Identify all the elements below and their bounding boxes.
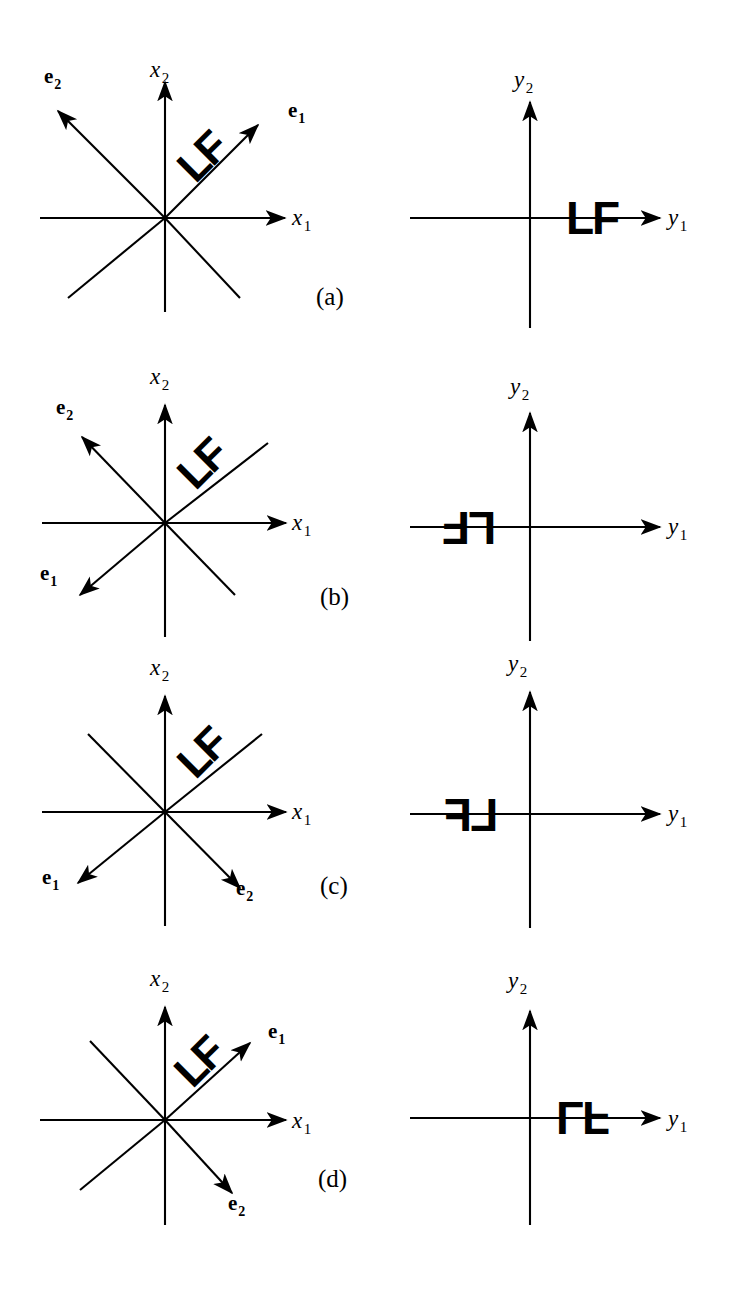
y1-axis-label: y1 xyxy=(668,206,687,234)
e2-ray xyxy=(165,812,240,888)
lf-motif-y: LF xyxy=(566,195,618,241)
panel-label-c: (c) xyxy=(320,872,348,900)
y-axes-svg xyxy=(370,355,729,645)
figure-root: x1 x2 e1 e2 LF y1 y2 LF (a) xyxy=(0,0,729,1291)
x1-axis-label: x1 xyxy=(292,206,311,234)
diag-up-left xyxy=(88,734,165,812)
e1-vector-label: e1 xyxy=(288,100,305,126)
diag-down-right xyxy=(165,218,240,298)
e2-ray xyxy=(82,437,165,523)
lf-motif-y: LF xyxy=(556,1095,608,1141)
y2-axis-label: y2 xyxy=(508,652,527,680)
panel-label-a: (a) xyxy=(316,283,344,311)
e2-vector-label: e2 xyxy=(44,66,61,92)
y2-axis-label: y2 xyxy=(510,375,529,403)
panel-a-y-diagram: y1 y2 LF xyxy=(370,40,729,340)
e1-vector-label: e1 xyxy=(42,867,59,893)
y1-axis-label: y1 xyxy=(668,802,687,830)
y1-axis-label: y1 xyxy=(668,515,687,543)
x2-axis-label: x2 xyxy=(150,656,169,684)
e2-vector-label: e2 xyxy=(236,878,253,904)
y-axes-svg xyxy=(370,40,729,340)
x1-axis-label: x1 xyxy=(292,511,311,539)
x2-axis-label: x2 xyxy=(150,365,169,393)
lf-motif-y: LF xyxy=(444,505,496,551)
x2-axis-label: x2 xyxy=(150,58,169,86)
panel-label-d: (d) xyxy=(318,1165,347,1193)
panel-b-x-diagram: x1 x2 e1 e2 LF xyxy=(0,355,370,645)
y2-axis-label: y2 xyxy=(514,68,533,96)
panel-b-y-diagram: y1 y2 LF xyxy=(370,355,729,645)
lf-motif-y: LF xyxy=(446,792,498,838)
panel-a-x-diagram: x1 x2 e1 e2 LF xyxy=(0,40,370,340)
y-axes-svg xyxy=(370,925,729,1225)
diag-down-right xyxy=(165,523,235,595)
e1-vector-label: e1 xyxy=(40,563,57,589)
diag-down-left xyxy=(80,1120,165,1190)
panel-b: x1 x2 e1 e2 LF y1 y2 LF (b) xyxy=(0,355,729,645)
y-axes-svg xyxy=(370,640,729,930)
panel-c-y-diagram: y1 y2 LF xyxy=(370,640,729,930)
star-rays xyxy=(40,1007,286,1225)
e1-ray xyxy=(78,812,165,883)
x1-axis-label: x1 xyxy=(292,1109,311,1137)
e2-ray xyxy=(165,1120,232,1193)
x1-axis-label: x1 xyxy=(292,800,311,828)
y2-axis-label: y2 xyxy=(508,969,527,997)
e2-vector-label: e2 xyxy=(228,1193,245,1219)
e1-vector-label: e1 xyxy=(268,1021,285,1047)
diag-up-left xyxy=(90,1041,165,1120)
y1-axis-label: y1 xyxy=(668,1107,687,1135)
panel-d: x1 x2 e1 e2 LF y1 y2 LF (d) xyxy=(0,925,729,1225)
star-rays xyxy=(42,405,286,637)
diag-down-left xyxy=(68,218,165,298)
panel-c: x1 x2 e1 e2 LF y1 y2 LF (c) xyxy=(0,640,729,930)
x2-axis-label: x2 xyxy=(150,967,169,995)
panel-a: x1 x2 e1 e2 LF y1 y2 LF (a) xyxy=(0,40,729,340)
star-rays xyxy=(40,82,285,312)
panel-d-y-diagram: y1 y2 LF xyxy=(370,925,729,1225)
e1-ray xyxy=(80,523,165,595)
e2-ray xyxy=(58,111,165,218)
panel-c-x-diagram: x1 x2 e1 e2 LF xyxy=(0,640,370,930)
panel-d-x-diagram: x1 x2 e1 e2 LF xyxy=(0,925,370,1225)
e2-vector-label: e2 xyxy=(56,397,73,423)
panel-label-b: (b) xyxy=(320,583,349,611)
